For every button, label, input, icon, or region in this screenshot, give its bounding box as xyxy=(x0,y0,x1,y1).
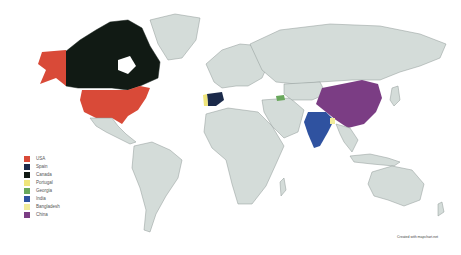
legend-item-georgia: Georgia xyxy=(24,187,60,195)
legend-item-canada: Canada xyxy=(24,171,60,179)
mexico-central-america xyxy=(90,118,136,144)
russia xyxy=(250,24,446,84)
legend-swatch xyxy=(24,180,30,186)
map-credit: Created with mapchart.net xyxy=(397,235,438,239)
country-bangladesh xyxy=(330,118,335,124)
legend-label: Canada xyxy=(36,172,52,178)
legend-item-bangladesh: Bangladesh xyxy=(24,203,60,211)
new-zealand xyxy=(438,202,444,216)
world-map xyxy=(0,0,461,255)
legend-label: Spain xyxy=(36,164,48,170)
legend-swatch xyxy=(24,212,30,218)
legend-item-portugal: Portugal xyxy=(24,179,60,187)
country-usa-alaska xyxy=(38,50,66,86)
country-india xyxy=(304,112,334,148)
country-spain xyxy=(207,92,224,106)
madagascar xyxy=(280,178,286,196)
legend-label: Georgia xyxy=(36,188,52,194)
legend-label: China xyxy=(36,212,48,218)
legend-label: Bangladesh xyxy=(36,204,60,210)
legend-label: USA xyxy=(36,156,45,162)
greenland xyxy=(150,14,200,60)
legend-item-spain: Spain xyxy=(24,163,60,171)
legend-label: India xyxy=(36,196,46,202)
south-america xyxy=(132,142,182,232)
legend-item-usa: USA xyxy=(24,155,60,163)
southeast-asia xyxy=(336,124,358,152)
country-georgia xyxy=(276,95,285,101)
legend-swatch xyxy=(24,204,30,210)
japan xyxy=(390,86,400,106)
australia xyxy=(368,166,424,206)
legend-item-india: India xyxy=(24,195,60,203)
legend-swatch xyxy=(24,164,30,170)
legend-swatch xyxy=(24,156,30,162)
legend-swatch xyxy=(24,188,30,194)
legend-label: Portugal xyxy=(36,180,53,186)
legend-item-china: China xyxy=(24,211,60,219)
legend-swatch xyxy=(24,172,30,178)
indonesia xyxy=(350,154,400,166)
legend-swatch xyxy=(24,196,30,202)
map-legend: USA Spain Canada Portugal Georgia India … xyxy=(24,155,60,219)
country-canada xyxy=(65,20,160,90)
